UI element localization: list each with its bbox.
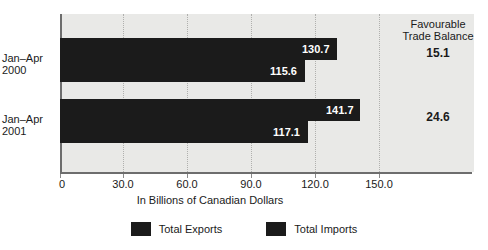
legend-label-total-exports: Total Exports: [159, 223, 223, 235]
legend-label-total-imports: Total Imports: [294, 223, 357, 235]
category-label-2001-line2: 2001: [2, 125, 56, 137]
bar-value-imports-2000: 115.6: [266, 64, 301, 79]
bar-exports-2000: [60, 38, 337, 60]
bar-value-imports-2001: 117.1: [269, 125, 304, 140]
x-tick-label-90: 90.0: [240, 178, 261, 190]
category-label-2001: Jan–Apr 2001: [2, 113, 56, 137]
x-axis-title: In Billions of Canadian Dollars: [0, 194, 420, 206]
x-tick-label-60: 60.0: [176, 178, 197, 190]
category-label-2000-line1: Jan–Apr: [2, 52, 56, 64]
favourable-trade-balance-title-line2: Trade Balance: [392, 30, 484, 42]
legend-item-total-imports[interactable]: Total Imports: [266, 222, 357, 236]
favourable-trade-balance-value-2000: 15.1: [392, 46, 484, 60]
x-axis-line: [60, 172, 472, 174]
favourable-trade-balance-title: Favourable Trade Balance: [392, 18, 484, 42]
favourable-trade-balance-title-line1: Favourable: [392, 18, 484, 30]
x-tick-label-120: 120.0: [301, 178, 329, 190]
category-label-2000: Jan–Apr 2000: [2, 52, 56, 76]
category-label-2000-line2: 2000: [2, 64, 56, 76]
legend-swatch-icon-total-imports: [266, 222, 286, 236]
bar-exports-2001: [60, 99, 360, 121]
legend-item-total-exports[interactable]: Total Exports: [131, 222, 223, 236]
trade-balance-bar-chart: 0 30.0 60.0 90.0 120.0 150.0 In Billions…: [0, 0, 488, 250]
x-tick-label-150: 150.0: [365, 178, 393, 190]
gridline-150: [379, 14, 380, 172]
x-tick-label-30: 30.0: [112, 178, 133, 190]
bar-value-exports-2000: 130.7: [298, 42, 334, 57]
chart-legend: Total Exports Total Imports: [0, 222, 488, 236]
favourable-trade-balance-value-2001: 24.6: [392, 110, 484, 124]
legend-swatch-icon-total-exports: [131, 222, 151, 236]
bar-value-exports-2001: 141.7: [322, 103, 358, 118]
x-tick-label-0: 0: [59, 178, 65, 190]
category-label-2001-line1: Jan–Apr: [2, 113, 56, 125]
